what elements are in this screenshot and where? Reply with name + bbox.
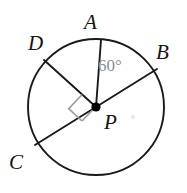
segment-radius-pd: [44, 60, 96, 107]
point-label-p: P: [104, 112, 117, 133]
angle-measure-label: 60°: [98, 57, 122, 74]
point-label-a: A: [84, 12, 97, 33]
scan-artifact-speck: [131, 115, 135, 119]
geometry-figure: A B C D P 60°: [0, 0, 187, 193]
point-label-d: D: [28, 33, 43, 54]
center-point-dot: [91, 102, 100, 111]
point-label-b: B: [156, 42, 169, 63]
point-label-c: C: [9, 152, 23, 173]
